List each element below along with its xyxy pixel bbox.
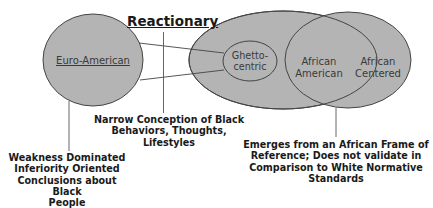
- emerges-line2: Reference; Does not validate in: [242, 150, 430, 161]
- narrow-line1: Narrow Conception of Black: [84, 114, 254, 125]
- ghetto-centric-line1: Ghetto-: [226, 50, 274, 61]
- narrow-line3: Lifestyles: [84, 137, 254, 148]
- african-centered-line1: African: [348, 56, 408, 68]
- weakness-line3: Conclusions about Black: [2, 175, 132, 198]
- narrow-line2: Behaviors, Thoughts,: [84, 125, 254, 136]
- african-centered-label: African Centered: [348, 56, 408, 80]
- african-american-line2: American: [289, 68, 349, 80]
- weakness-line4: People: [2, 197, 132, 208]
- african-centered-line2: Centered: [348, 68, 408, 80]
- weakness-line2: Inferiority Oriented: [2, 163, 132, 174]
- ghetto-centric-label: Ghetto- centric: [226, 50, 274, 73]
- emerges-line3: Comparison to White Normative: [242, 162, 430, 173]
- african-american-line1: African: [289, 56, 349, 68]
- emerges-caption: Emerges from an African Frame of Referen…: [242, 139, 430, 184]
- narrow-conception-caption: Narrow Conception of Black Behaviors, Th…: [84, 114, 254, 148]
- diagram-title: Reactionary: [127, 14, 207, 30]
- african-american-label: African American: [289, 56, 349, 80]
- ghetto-centric-line2: centric: [226, 61, 274, 72]
- emerges-line4: Standards: [242, 173, 430, 184]
- emerges-line1: Emerges from an African Frame of: [242, 139, 430, 150]
- euro-american-label: Euro-American: [48, 55, 138, 67]
- weakness-line1: Weakness Dominated: [2, 152, 132, 163]
- weakness-caption: Weakness Dominated Inferiority Oriented …: [2, 152, 132, 208]
